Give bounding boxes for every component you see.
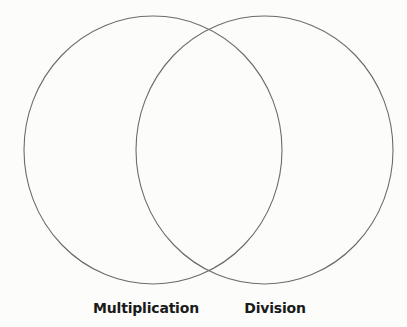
division-label: Division [244, 300, 305, 316]
multiplication-label: Multiplication [93, 300, 199, 316]
division-circle [136, 16, 393, 284]
venn-diagram: Multiplication Division [0, 0, 407, 327]
venn-circles [0, 0, 407, 327]
multiplication-circle [24, 16, 282, 284]
